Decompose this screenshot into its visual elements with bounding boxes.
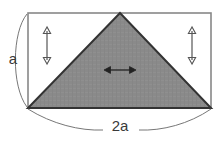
base-dimension-label: 2a [112, 117, 129, 134]
geometry-figure: a 2a [0, 0, 220, 142]
height-dimension-label: a [9, 50, 18, 67]
figure-canvas: a 2a [0, 0, 220, 142]
